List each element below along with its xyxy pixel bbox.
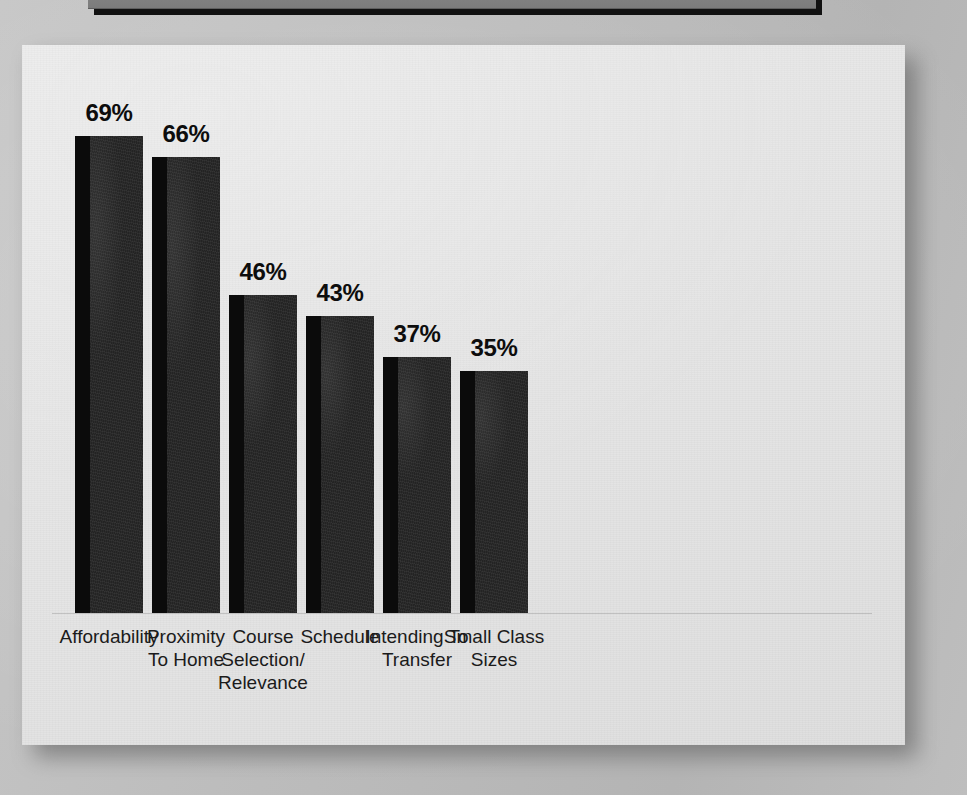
- bar-side-face: [229, 295, 244, 613]
- bar-group: 43%Schedule: [306, 316, 374, 613]
- top-banner-plate: [88, 0, 816, 9]
- top-banner: [88, 0, 816, 8]
- bar-value-label: 66%: [162, 122, 209, 146]
- bar-value-label: 37%: [393, 322, 440, 346]
- bar-side-face: [383, 357, 398, 613]
- bar-side-face: [460, 371, 475, 613]
- bar-value-label: 43%: [316, 281, 363, 305]
- bar-side-face: [306, 316, 321, 613]
- bar-group: 37%Intending To Transfer: [383, 357, 451, 613]
- chart-baseline: [52, 613, 872, 614]
- bar-group: 35%Small Class Sizes: [460, 371, 528, 613]
- bar-group: 46%Course Selection/ Relevance: [229, 295, 297, 613]
- bar-group: 66%Proximity To Home: [152, 157, 220, 613]
- bar-value-label: 69%: [85, 101, 132, 125]
- bar-group: 69%Affordability: [75, 136, 143, 613]
- bar-side-face: [152, 157, 167, 613]
- bar-category-label: Small Class Sizes: [419, 625, 569, 671]
- bar-value-label: 46%: [239, 260, 286, 284]
- screenshot-root: 69%Affordability66%Proximity To Home46%C…: [0, 0, 967, 795]
- bar-value-label: 35%: [470, 336, 517, 360]
- bar-chart: 69%Affordability66%Proximity To Home46%C…: [22, 45, 905, 745]
- chart-paper-panel: 69%Affordability66%Proximity To Home46%C…: [22, 45, 905, 745]
- bar-side-face: [75, 136, 90, 613]
